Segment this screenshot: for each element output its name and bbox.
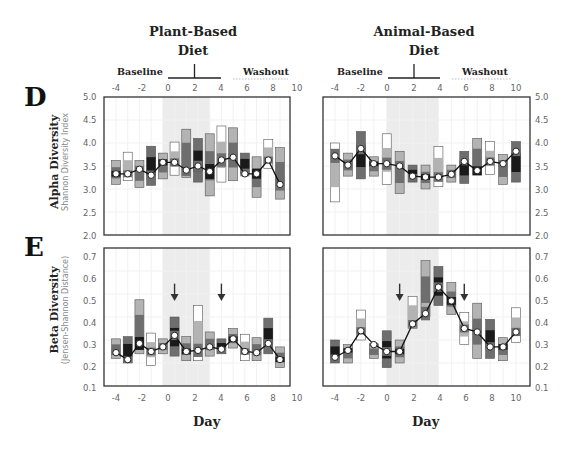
median-point: [148, 348, 154, 354]
median-point: [253, 349, 259, 355]
y-tick: 4.5: [83, 115, 97, 125]
median-point: [125, 356, 131, 362]
median-point: [183, 348, 189, 354]
y-tick: 4.0: [83, 138, 97, 148]
distribution-box: [486, 319, 495, 358]
panel-letter-d: D: [24, 82, 47, 112]
y-tick: 4.5: [535, 115, 549, 125]
median-point: [230, 336, 236, 342]
x-tick: 2: [404, 393, 424, 403]
distribution-box: [135, 160, 144, 187]
x-tick: 2: [404, 83, 424, 93]
median-point: [136, 340, 142, 346]
median-point: [422, 174, 428, 180]
median-point: [409, 321, 415, 327]
arrow-down-icon: [460, 284, 468, 301]
median-point: [396, 348, 402, 354]
x-tick: 8: [482, 83, 502, 93]
median-point: [513, 329, 519, 335]
x-tick: -4: [106, 393, 126, 403]
median-point: [358, 145, 364, 151]
x-tick: 0: [158, 393, 178, 403]
x-tick: 10: [287, 393, 307, 403]
median-point: [422, 310, 428, 316]
x-tick: 8: [263, 393, 283, 403]
median-point: [396, 163, 402, 169]
distribution-box: [382, 134, 391, 185]
y-tick: 3.0: [535, 185, 549, 195]
arrow-down-icon: [217, 284, 225, 301]
median-point: [474, 329, 480, 335]
median-point: [160, 159, 166, 165]
x-tick: 10: [506, 83, 526, 93]
x-tick: -4: [325, 83, 345, 93]
y-tick: 3.5: [83, 162, 97, 172]
median-point: [195, 163, 201, 169]
x-tick: -2: [132, 83, 152, 93]
alpha-diversity-y-label: Alpha Diversity Shannon Diversity Index: [48, 92, 70, 232]
median-point: [409, 173, 415, 179]
median-point: [207, 168, 213, 174]
plot-alpha-plant: [104, 97, 290, 235]
median-point: [277, 181, 283, 187]
beta-ylabel-main: Beta Diversity: [48, 240, 61, 380]
animal-x-label: Day: [412, 414, 439, 429]
x-tick: 4: [430, 83, 450, 93]
median-point: [253, 171, 259, 177]
panel-letter-e: E: [24, 232, 44, 262]
x-tick: -2: [351, 83, 371, 93]
x-tick: -4: [106, 83, 126, 93]
median-point: [332, 153, 338, 159]
median-point: [513, 148, 519, 154]
x-tick: -2: [132, 393, 152, 403]
median-point: [358, 328, 364, 334]
y-tick: 0.5: [83, 296, 97, 306]
x-tick: 2: [185, 83, 205, 93]
x-tick: 6: [237, 83, 257, 93]
median-point: [461, 158, 467, 164]
x-tick: -4: [325, 393, 345, 403]
median-point: [435, 284, 441, 290]
y-tick: 5.0: [83, 92, 97, 102]
median-point: [500, 161, 506, 167]
plot-beta-plant: [104, 248, 290, 386]
x-tick: 0: [158, 83, 178, 93]
y-tick: 3.0: [83, 185, 97, 195]
median-point: [474, 167, 480, 173]
median-point: [345, 347, 351, 353]
median-point: [345, 162, 351, 168]
y-tick: 0.6: [83, 274, 97, 284]
median-point: [171, 159, 177, 165]
y-tick: 5.0: [535, 92, 549, 102]
x-tick: 0: [377, 393, 397, 403]
alpha-ylabel-main: Alpha Diversity: [48, 92, 61, 232]
y-tick: 0.5: [535, 296, 549, 306]
x-tick: 10: [506, 393, 526, 403]
distribution-box: [356, 132, 365, 179]
median-point: [230, 154, 236, 160]
alpha-ylabel-sub: Shannon Diversity Index: [61, 92, 70, 232]
x-tick: 4: [430, 393, 450, 403]
median-point: [136, 166, 142, 172]
plant-x-label: Day: [193, 414, 220, 429]
distribution-box: [512, 308, 521, 343]
median-point: [218, 346, 224, 352]
median-point: [332, 354, 338, 360]
distribution-box: [194, 138, 203, 182]
median-point: [448, 298, 454, 304]
x-tick: 8: [263, 83, 283, 93]
x-tick: 6: [237, 393, 257, 403]
median-point: [277, 356, 283, 362]
y-tick: 0.4: [83, 318, 97, 328]
median-point: [265, 157, 271, 163]
y-tick: 0.1: [535, 383, 549, 393]
x-tick: 0: [377, 83, 397, 93]
x-tick: -2: [351, 393, 371, 403]
beta-diversity-y-label: Beta Diversity (Jensen-Shannon Distance): [48, 240, 70, 380]
y-tick: 0.1: [83, 383, 97, 393]
median-point: [242, 348, 248, 354]
y-tick: 0.7: [535, 252, 549, 262]
distribution-box: [499, 155, 508, 185]
y-tick: 0.2: [83, 362, 97, 372]
median-point: [207, 344, 213, 350]
